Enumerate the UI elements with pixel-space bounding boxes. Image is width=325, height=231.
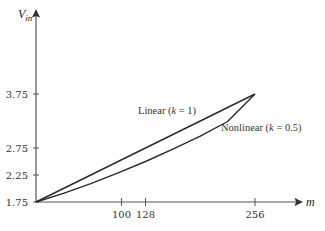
x-tick-label: 256 [245, 209, 264, 220]
y-tick-label: 1.75 [6, 197, 28, 208]
x-tick-label: 128 [136, 209, 155, 220]
y-axis-title: Vin [18, 7, 33, 23]
y-tick-label: 3.75 [6, 89, 28, 100]
y-axis-title-subscript: in [25, 13, 33, 23]
x-axis-title: m [306, 195, 315, 209]
y-tick-label: 2.75 [6, 143, 28, 154]
y-tick-label: 2.25 [6, 170, 28, 181]
x-tick-label: 100 [112, 209, 131, 220]
chart: Vin m 1.752.252.753.75 100128256 Linear … [0, 0, 325, 231]
annotation-nonlinear: Nonlinear (k = 0.5) [221, 122, 302, 134]
annotation-linear: Linear (k = 1) [138, 105, 197, 117]
